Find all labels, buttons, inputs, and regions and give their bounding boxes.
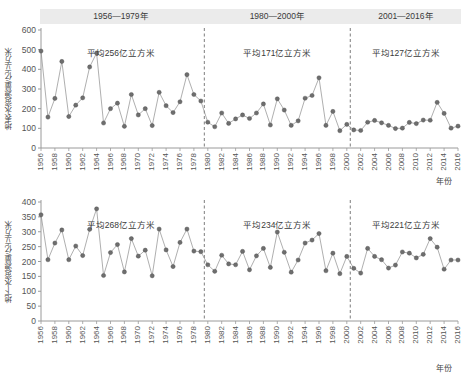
- data-point: [254, 111, 258, 115]
- data-point: [400, 126, 404, 130]
- data-point: [74, 244, 78, 248]
- data-point: [227, 121, 231, 125]
- data-point: [407, 120, 411, 124]
- data-point: [324, 269, 328, 273]
- data-point: [449, 258, 453, 262]
- x-axis-title-ground: 年份: [436, 362, 452, 373]
- data-point: [240, 113, 244, 117]
- data-point: [421, 118, 425, 122]
- data-point: [345, 254, 349, 258]
- period-label-1: 1956—1979年: [41, 9, 201, 24]
- data-point: [108, 250, 112, 254]
- data-point: [143, 248, 147, 252]
- period-average-note: 平均127亿立方米: [354, 46, 458, 58]
- data-point: [435, 100, 439, 104]
- data-point: [171, 264, 175, 268]
- data-point: [303, 96, 307, 100]
- data-point: [400, 250, 404, 254]
- data-point: [115, 101, 119, 105]
- data-point: [81, 253, 85, 257]
- data-point: [268, 123, 272, 127]
- data-point: [178, 240, 182, 244]
- data-point: [366, 120, 370, 124]
- data-point: [220, 253, 224, 257]
- data-point: [247, 268, 251, 272]
- data-point: [136, 113, 140, 117]
- data-point: [261, 246, 265, 250]
- data-point: [407, 251, 411, 255]
- data-point: [428, 118, 432, 122]
- chart-page: 1956—1979年 1980—2000年 2001—2016年 地表水资源量/…: [0, 0, 463, 378]
- data-point: [192, 92, 196, 96]
- data-point: [373, 118, 377, 122]
- chart-surface-water: 地表水资源量/亿立方米 0100200300400500600 19561958…: [0, 24, 463, 184]
- data-point: [150, 123, 154, 127]
- data-point: [352, 128, 356, 132]
- data-point: [254, 254, 258, 258]
- data-point: [338, 129, 342, 133]
- data-point: [428, 236, 432, 240]
- data-point: [206, 120, 210, 124]
- data-point: [331, 251, 335, 255]
- data-point: [129, 236, 133, 240]
- data-point: [296, 119, 300, 123]
- data-point: [136, 254, 140, 258]
- data-point: [324, 123, 328, 127]
- data-point: [185, 73, 189, 77]
- data-point: [289, 123, 293, 127]
- data-point: [220, 111, 224, 115]
- period-average-note: 平均268亿立方米: [41, 218, 201, 230]
- data-point: [95, 207, 99, 211]
- data-point: [164, 104, 168, 108]
- data-point: [386, 266, 390, 270]
- x-axis-title-surface: 年份: [436, 175, 452, 186]
- data-point: [234, 263, 238, 267]
- data-point: [338, 272, 342, 276]
- data-point: [359, 271, 363, 275]
- data-point: [101, 273, 105, 277]
- data-point: [352, 266, 356, 270]
- data-point: [150, 274, 154, 278]
- data-point: [456, 124, 460, 128]
- data-point: [101, 121, 105, 125]
- data-point: [171, 111, 175, 115]
- data-point: [240, 249, 244, 253]
- data-point: [393, 263, 397, 267]
- data-point: [456, 258, 460, 262]
- data-point: [379, 121, 383, 125]
- data-point: [227, 262, 231, 266]
- data-point: [442, 267, 446, 271]
- data-point: [234, 117, 238, 121]
- data-point: [39, 213, 43, 217]
- period-average-note: 平均256亿立方米: [41, 46, 201, 58]
- data-point: [317, 231, 321, 235]
- data-point: [268, 265, 272, 269]
- data-point: [213, 269, 217, 273]
- data-point: [199, 250, 203, 254]
- data-point: [213, 125, 217, 129]
- data-point: [129, 92, 133, 96]
- data-point: [206, 263, 210, 267]
- data-point: [379, 258, 383, 262]
- data-point: [67, 114, 71, 118]
- data-point: [366, 246, 370, 250]
- data-point: [435, 245, 439, 249]
- data-point: [178, 100, 182, 104]
- data-point: [421, 252, 425, 256]
- data-point: [115, 242, 119, 246]
- period-label-3: 2001—2016年: [354, 9, 458, 24]
- data-point: [53, 241, 57, 245]
- data-point: [414, 122, 418, 126]
- data-point: [46, 115, 50, 119]
- data-point: [310, 238, 314, 242]
- data-point: [289, 270, 293, 274]
- data-point: [192, 249, 196, 253]
- data-point: [199, 99, 203, 103]
- period-label-2: 1980—2000年: [208, 9, 347, 24]
- data-point: [53, 96, 57, 100]
- data-point: [122, 124, 126, 128]
- data-point: [331, 109, 335, 113]
- data-point: [317, 76, 321, 80]
- data-point: [81, 96, 85, 100]
- data-point: [449, 126, 453, 130]
